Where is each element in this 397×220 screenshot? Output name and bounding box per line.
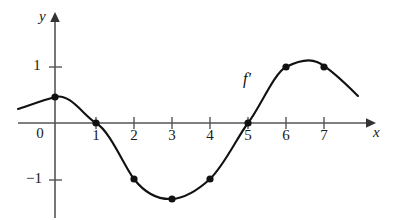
y-tick-label-1: 1	[30, 57, 44, 74]
point-x0	[51, 93, 58, 100]
point-x1	[92, 119, 99, 126]
y-axis-label: y	[39, 8, 46, 25]
point-x5	[244, 119, 251, 126]
x-tick-label-4: 4	[203, 127, 217, 144]
x-tick-label-2: 2	[127, 127, 141, 144]
origin-label: 0	[33, 125, 47, 142]
x-tick-label-1: 1	[89, 127, 103, 144]
curve-label-f-prime: f′	[243, 70, 251, 88]
x-tick-label-3: 3	[165, 127, 179, 144]
x-tick-label-7: 7	[317, 127, 331, 144]
point-x4	[206, 175, 213, 182]
y-axis-arrowhead	[50, 12, 60, 22]
derivative-curve	[18, 60, 358, 199]
x-tick-label-6: 6	[279, 127, 293, 144]
figure-canvas: y x 0 1 −1 1 2 3 4 5 6 7 f′	[0, 0, 397, 220]
point-x2	[130, 175, 137, 182]
x-tick-label-5: 5	[241, 127, 255, 144]
graph-plot	[0, 0, 397, 220]
point-x7	[320, 63, 327, 70]
point-x3	[168, 195, 175, 202]
y-axis	[50, 12, 60, 218]
y-tick-label-neg1: −1	[22, 170, 46, 187]
x-axis-label: x	[373, 124, 380, 141]
point-x6	[282, 63, 289, 70]
